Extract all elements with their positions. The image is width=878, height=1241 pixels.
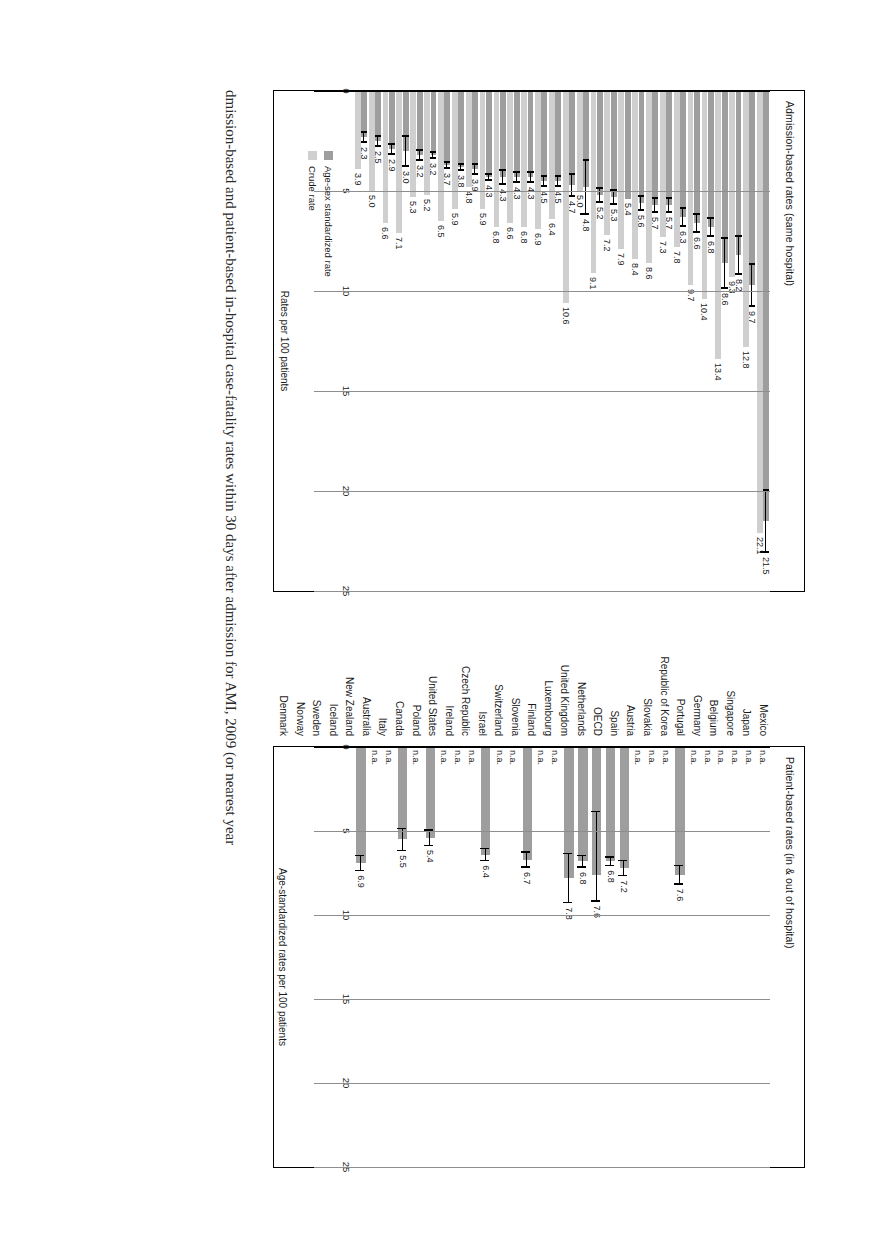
error-bar xyxy=(419,149,420,161)
error-bar xyxy=(377,135,378,147)
country-label: OECD xyxy=(592,602,603,736)
value-label-standardized: 7.8 xyxy=(564,907,574,920)
panel-patient-based: Patient-based rates (in & out of hospita… xyxy=(273,746,805,1168)
value-label-crude: 10.4 xyxy=(699,303,709,321)
error-bar xyxy=(654,197,655,213)
bar-crude xyxy=(674,91,680,247)
bar-crude xyxy=(660,91,666,237)
bar-crude xyxy=(632,91,638,259)
country-label: Sweden xyxy=(311,602,322,736)
bar-standardized xyxy=(486,91,492,177)
na-label: n.a. xyxy=(453,750,463,765)
bar-group: 4.36.6 xyxy=(507,91,521,591)
bar-group: 3.85.9 xyxy=(451,91,465,591)
bar-group: n.a. xyxy=(437,747,451,1167)
bar-crude xyxy=(521,91,527,227)
gridline xyxy=(314,1083,770,1084)
bar-group: 5.4 xyxy=(423,747,437,1167)
country-label-column: MexicoJapanSingaporeBelgiumGermanyPortug… xyxy=(275,602,771,736)
bar-standardized xyxy=(680,91,686,217)
value-label-crude: 8.6 xyxy=(644,267,654,280)
bar-group: n.a. xyxy=(687,747,701,1167)
error-bar xyxy=(502,169,503,185)
bar-group: n.a. xyxy=(534,747,548,1167)
error-bar xyxy=(391,143,392,155)
error-bar xyxy=(460,163,461,171)
bar-standardized xyxy=(398,747,407,839)
bar-standardized xyxy=(514,91,520,177)
bar-group: 5.68.4 xyxy=(631,91,645,591)
error-bar xyxy=(710,217,711,237)
country-label: Poland xyxy=(410,602,421,736)
bar-group: 8.29.3 xyxy=(728,91,742,591)
bar-crude xyxy=(563,91,569,303)
value-label-crude: 6.6 xyxy=(381,227,391,240)
bar-crude xyxy=(577,91,583,191)
legend: Age-sex standardized rate Crude rate xyxy=(302,151,334,277)
error-bar xyxy=(640,195,641,211)
value-label-crude: 6.6 xyxy=(505,227,515,240)
country-label: Israel xyxy=(476,602,487,736)
error-bar xyxy=(526,851,527,868)
bar-crude xyxy=(715,91,721,359)
bar-standardized xyxy=(458,91,464,167)
na-label: n.a. xyxy=(703,750,713,765)
value-label-crude: 5.9 xyxy=(478,213,488,226)
error-bar xyxy=(610,856,611,866)
error-bar xyxy=(724,237,725,289)
value-label-crude: 9.1 xyxy=(589,277,599,290)
country-label: Czech Republic xyxy=(460,602,471,736)
na-label: n.a. xyxy=(370,750,380,765)
value-label-standardized: 7.6 xyxy=(675,888,685,901)
country-label: Slovenia xyxy=(509,602,520,736)
na-label: n.a. xyxy=(439,750,449,765)
bar-standardized xyxy=(625,91,631,199)
bar-standardized xyxy=(417,91,423,155)
error-bar xyxy=(765,489,766,553)
bar-crude xyxy=(646,91,652,263)
error-bar xyxy=(485,847,486,860)
na-label: n.a. xyxy=(495,750,505,765)
bar-group: n.a. xyxy=(451,747,465,1167)
error-bar xyxy=(738,235,739,275)
error-bar xyxy=(668,197,669,213)
bar-group: 6.69.7 xyxy=(687,91,701,591)
bar-group: n.a. xyxy=(409,747,423,1167)
country-label: Luxembourg xyxy=(542,602,553,736)
figure: Admission-based rates (same hospital) 21… xyxy=(39,46,839,1196)
bar-group: 6.9 xyxy=(354,747,368,1167)
bar-crude xyxy=(729,91,735,277)
bar-crude xyxy=(355,91,361,169)
value-label-crude: 5.2 xyxy=(422,199,432,212)
bar-group: 7.6 xyxy=(673,747,687,1167)
bar-group: 6.7 xyxy=(520,747,534,1167)
bar-standardized xyxy=(403,91,409,151)
gridline xyxy=(314,291,770,292)
bar-standardized xyxy=(523,747,532,860)
bars-right: n.a.n.a.n.a.n.a.n.a.n.a.7.6n.a.n.a.n.a.7… xyxy=(354,747,770,1167)
bar-standardized xyxy=(356,747,365,863)
panel-admission-based: Admission-based rates (same hospital) 21… xyxy=(273,90,805,592)
bar-standardized xyxy=(736,91,742,255)
bar-crude xyxy=(549,91,555,219)
value-label-standardized: 5.4 xyxy=(425,850,435,863)
na-label: n.a. xyxy=(716,750,726,765)
error-bar xyxy=(432,151,433,159)
country-label: New Zealand xyxy=(344,602,355,736)
country-label: Denmark xyxy=(278,602,289,736)
bar-group: 3.07.1 xyxy=(396,91,410,591)
bar-crude xyxy=(702,91,708,299)
value-label-crude: 6.4 xyxy=(547,223,557,236)
error-bar xyxy=(751,263,752,307)
bar-group: 6.810.4 xyxy=(701,91,715,591)
bar-standardized xyxy=(569,91,575,185)
bar-standardized xyxy=(472,91,478,169)
value-label-crude: 7.3 xyxy=(658,241,668,254)
value-label-crude: 8.4 xyxy=(630,263,640,276)
bar-group: 5.5 xyxy=(396,747,410,1167)
value-label-crude: 6.8 xyxy=(491,231,501,244)
error-bar xyxy=(474,163,475,175)
bar-crude xyxy=(604,91,610,235)
na-label: n.a. xyxy=(384,750,394,765)
bar-crude xyxy=(757,91,763,533)
